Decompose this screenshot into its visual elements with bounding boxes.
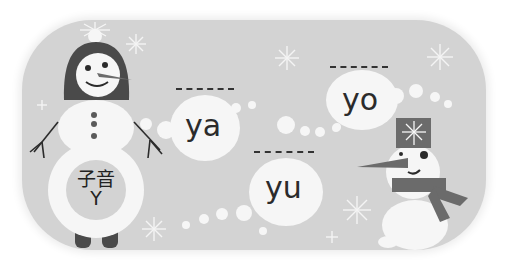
bubble-text-yu: yu [265,170,302,205]
illustration [0,0,506,267]
belly-label: 子音 Y [70,170,122,208]
right-snowman [357,118,468,250]
bubble-text-yo: yo [342,82,378,117]
belly-label-line2: Y [70,189,122,208]
bubble-text-ya: ya [185,108,221,143]
answer-blank-ya [176,88,234,90]
answer-blank-yo [330,66,388,68]
left-snowman [30,22,162,248]
answer-blank-yu [254,151,314,153]
